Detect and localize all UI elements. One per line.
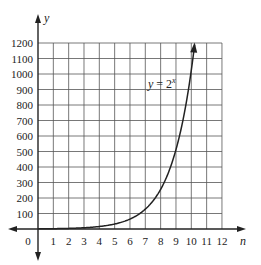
y-tick-label: 600 <box>17 130 34 142</box>
y-tick-label: 800 <box>17 99 34 111</box>
grid <box>38 43 222 229</box>
y-tick-label: 300 <box>17 177 34 189</box>
x-tick-label: 12 <box>216 235 227 247</box>
exponential-chart: 123456789101112 100200300400500600700800… <box>0 0 261 265</box>
x-tick-label: 11 <box>201 235 212 247</box>
y-tick-label: 100 <box>17 208 34 220</box>
y-tick-label: 1000 <box>11 68 34 80</box>
y-tick-label: 900 <box>17 84 34 96</box>
x-tick-label: 4 <box>97 235 103 247</box>
x-tick-label: 2 <box>66 235 72 247</box>
x-tick-label: 8 <box>158 235 164 247</box>
x-tick-label: 6 <box>127 235 133 247</box>
curve-2-pow-x <box>38 45 195 229</box>
y-tick-label: 1200 <box>11 37 34 49</box>
x-tick-label: 5 <box>112 235 118 247</box>
x-axis-label: n <box>240 234 246 248</box>
axes <box>8 14 246 261</box>
x-tick-label: 1 <box>51 235 57 247</box>
x-axis-right-arrow-icon <box>237 226 246 232</box>
equation-label: y = 2x <box>147 76 176 91</box>
origin-label: 0 <box>25 235 31 247</box>
y-tick-label: 700 <box>17 115 34 127</box>
y-axis-label: y <box>43 11 50 25</box>
x-tick-label: 10 <box>186 235 198 247</box>
x-tick-label: 9 <box>173 235 179 247</box>
x-tick-label: 3 <box>81 235 87 247</box>
y-tick-label: 400 <box>17 161 34 173</box>
y-tick-label: 500 <box>17 146 34 158</box>
y-tick-label: 200 <box>17 192 34 204</box>
x-tick-label: 7 <box>143 235 149 247</box>
y-tick-label: 1100 <box>11 53 33 65</box>
y-tick-labels: 100200300400500600700800900100011001200 <box>11 37 34 220</box>
equation-rhs: = 2 <box>153 77 172 91</box>
y-axis-down-arrow-icon <box>35 252 41 261</box>
equation-exponent: x <box>171 76 176 85</box>
x-tick-labels: 123456789101112 <box>51 235 228 247</box>
x-axis-left-arrow-icon <box>8 226 17 232</box>
y-axis-up-arrow-icon <box>35 14 41 23</box>
